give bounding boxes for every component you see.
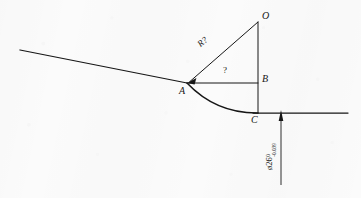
diameter-dimension-text: ø26 0 -0.039 bbox=[265, 143, 279, 170]
dimension-arrowhead-up bbox=[279, 110, 284, 121]
diameter-value: ø26 bbox=[265, 157, 274, 170]
tolerance-stack: 0 -0.039 bbox=[266, 143, 277, 156]
angle-label: ? bbox=[223, 66, 227, 75]
point-label-o: O bbox=[262, 11, 269, 21]
geometry-svg bbox=[0, 0, 361, 198]
point-label-c: C bbox=[251, 115, 258, 125]
point-label-a: A bbox=[179, 86, 185, 96]
tolerance-lower: -0.039 bbox=[272, 143, 278, 156]
fillet-arc-ac bbox=[187, 83, 258, 113]
technical-drawing-canvas: O A B C R? ? ø26 0 -0.039 bbox=[0, 0, 361, 198]
point-label-b: B bbox=[262, 74, 268, 84]
left-tangent-line bbox=[20, 50, 187, 83]
